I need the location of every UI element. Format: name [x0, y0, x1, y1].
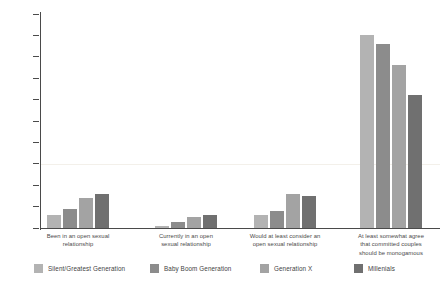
- bar: [47, 215, 61, 228]
- y-axis-tick-mark: [33, 99, 39, 100]
- bar-group: [151, 14, 221, 228]
- y-axis-tick-mark: [33, 78, 39, 79]
- bar-group-bars: [250, 14, 320, 228]
- legend-item-label: Silent/Greatest Generation: [48, 265, 125, 272]
- y-axis-tick-mark: [33, 185, 39, 186]
- x-axis-category-label-line: open sexual relationship: [235, 240, 335, 248]
- y-axis-tick-mark: [33, 142, 39, 143]
- chart-legend: Silent/Greatest GenerationBaby Boom Gene…: [34, 264, 444, 280]
- x-axis-category-label-line: At least somewhat agree: [338, 232, 444, 240]
- legend-item-label: Generation X: [274, 265, 312, 272]
- bar: [270, 211, 284, 228]
- legend-item-label: Millenials: [368, 265, 395, 272]
- y-axis-tick-mark: [33, 228, 39, 229]
- x-axis-category-label-line: sexual relationship: [143, 240, 229, 248]
- legend-item[interactable]: Silent/Greatest Generation: [34, 264, 125, 273]
- plot-area: [40, 14, 440, 228]
- x-axis-category-label: Would at least consider anopen sexual re…: [235, 232, 335, 249]
- bar: [95, 194, 109, 228]
- legend-swatch-icon: [34, 264, 43, 273]
- x-axis-category-label-line: Been in an open sexual: [33, 232, 123, 240]
- bar-group: [356, 14, 426, 228]
- legend-item-label: Baby Boom Generation: [164, 265, 231, 272]
- legend-item[interactable]: Generation X: [260, 264, 312, 273]
- bar-group: [43, 14, 113, 228]
- legend-swatch-icon: [260, 264, 269, 273]
- y-axis-tick-mark: [33, 14, 39, 15]
- bar: [286, 194, 300, 228]
- x-axis-category-label-line: that committed couples: [338, 240, 444, 248]
- bar: [155, 226, 169, 228]
- bar: [79, 198, 93, 228]
- x-axis-category-label: Currently in an opensexual relationship: [143, 232, 229, 249]
- bar-group-bars: [151, 14, 221, 228]
- y-axis-tick-mark: [33, 56, 39, 57]
- bar-group-bars: [356, 14, 426, 228]
- bar: [187, 217, 201, 228]
- x-axis-category-label: Been in an open sexualrelationship: [33, 232, 123, 249]
- bar-group-bars: [43, 14, 113, 228]
- bar-group: [250, 14, 320, 228]
- bar: [302, 196, 316, 228]
- bar: [203, 215, 217, 228]
- y-axis-tick-mark: [33, 206, 39, 207]
- legend-item[interactable]: Millenials: [354, 264, 395, 273]
- legend-swatch-icon: [354, 264, 363, 273]
- legend-item[interactable]: Baby Boom Generation: [150, 264, 231, 273]
- y-axis-tick-mark: [33, 121, 39, 122]
- bar: [254, 215, 268, 228]
- legend-swatch-icon: [150, 264, 159, 273]
- y-axis-tick-mark: [33, 35, 39, 36]
- bar: [376, 44, 390, 228]
- x-axis-line: [40, 228, 440, 229]
- bar: [360, 35, 374, 228]
- bar: [63, 209, 77, 228]
- x-axis-category-label-line: Would at least consider an: [235, 232, 335, 240]
- bar: [392, 65, 406, 228]
- y-axis-tick-mark: [33, 163, 39, 164]
- x-axis-category-label-line: Currently in an open: [143, 232, 229, 240]
- x-axis-category-label-line: should be monogamous: [338, 249, 444, 257]
- bar: [408, 95, 422, 228]
- x-axis-category-label-line: relationship: [33, 240, 123, 248]
- x-axis-category-label: At least somewhat agreethat committed co…: [338, 232, 444, 257]
- bar-chart: 0102030405060708090100 Been in an open s…: [0, 0, 448, 299]
- bar: [171, 222, 185, 228]
